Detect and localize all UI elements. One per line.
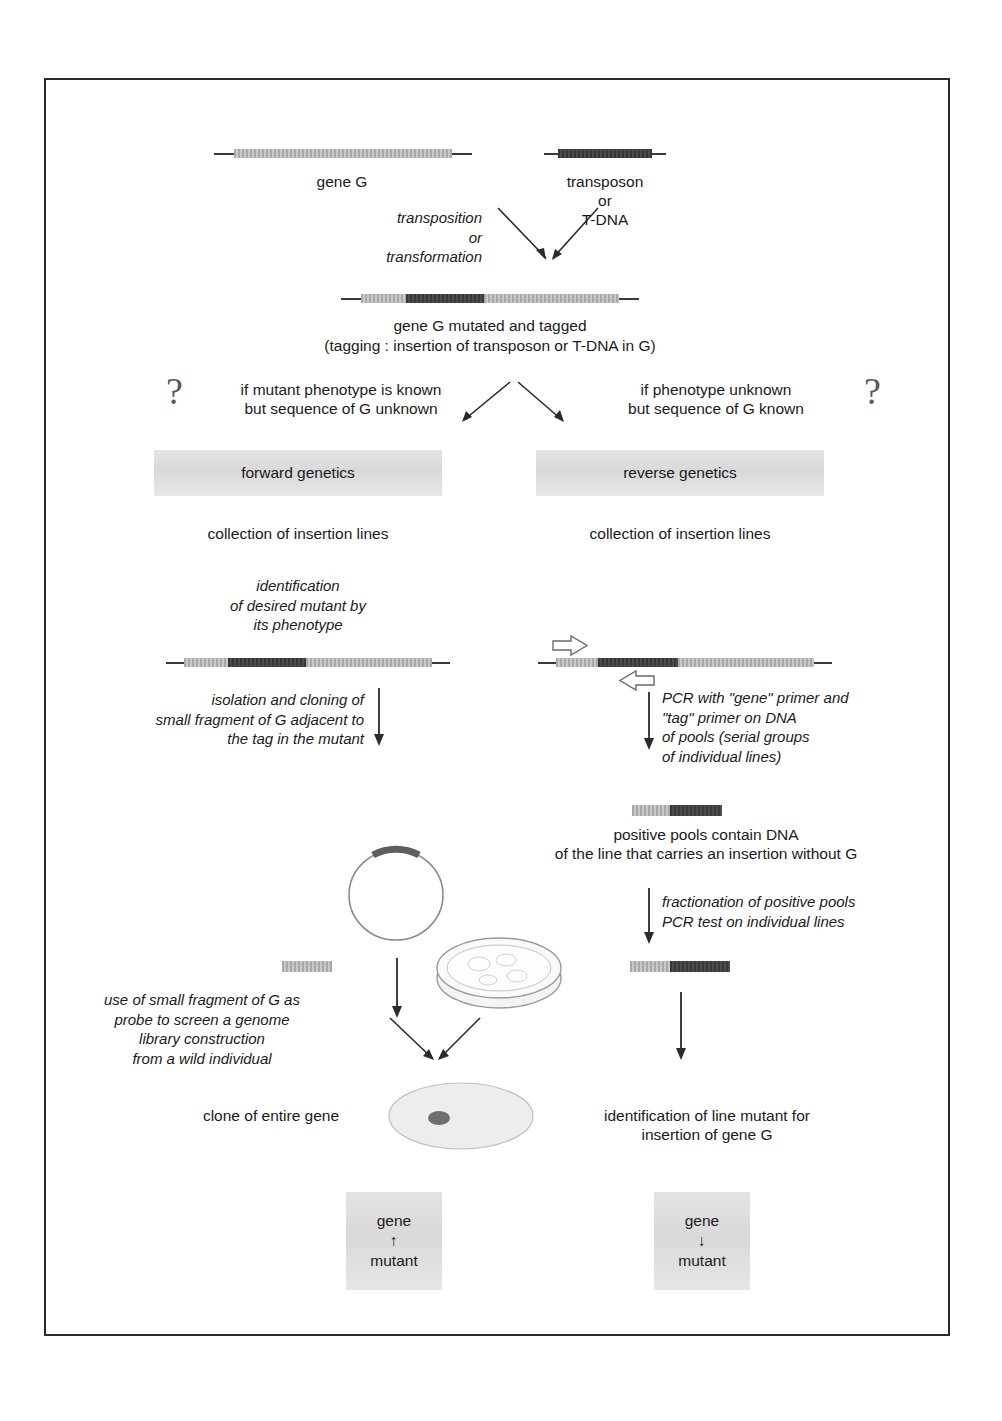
gene-g-bar-left-tail: [214, 153, 236, 155]
figure-frame: gene G transposon or T-DNA transposition…: [44, 78, 950, 1336]
line-mutant-identification-label: identification of line mutant for insert…: [532, 1106, 882, 1144]
mutated-bar-tag-insert: [406, 294, 484, 303]
forward-mutant-bar: [168, 658, 448, 667]
gene-g-label: gene G: [262, 172, 422, 191]
transposition-arrows: [486, 198, 626, 270]
pcr-down-arrow: [642, 692, 656, 752]
gene-g-mutated-bar: [343, 294, 637, 303]
transposon-bar-right-tail: [650, 153, 666, 155]
reverse-mutant-bar-left-tail: [538, 662, 558, 664]
forward-mutant-bar-left-tail: [166, 662, 186, 664]
transposon-bar: [546, 149, 664, 158]
mutated-caption-line1: gene G mutated and tagged: [260, 316, 720, 335]
gene-g-bar-body: [234, 149, 452, 158]
mutated-bar-left-tail: [341, 298, 363, 300]
petri-dish-icon: [434, 930, 564, 1014]
reverse-identification-down-arrow: [674, 992, 688, 1062]
mutated-bar-gene-left: [361, 294, 406, 303]
positive-pool-fragment-gene: [632, 805, 670, 816]
branch-arrows: [452, 376, 572, 432]
isolation-cloning-label: isolation and cloning of small fragment …: [54, 690, 364, 749]
probe-screen-label: use of small fragment of G as probe to s…: [52, 990, 352, 1068]
right-condition-label: if phenotype unknown but sequence of G k…: [576, 380, 856, 418]
right-question-mark-icon: ?: [864, 372, 881, 410]
reverse-mutant-bar-gene-left: [556, 658, 598, 667]
mutated-caption-line2: (tagging : insertion of transposon or T-…: [230, 336, 750, 355]
mutated-bar-gene-right: [484, 294, 619, 303]
reverse-primer-arrow-icon: [618, 670, 658, 692]
positive-pool-fragment-bar: [632, 805, 722, 816]
transposition-label: transposition or transformation: [262, 208, 482, 267]
probe-fragment-gene: [282, 961, 332, 972]
gene-g-bar-right-tail: [450, 153, 472, 155]
reverse-result-box: gene ↓ mutant: [654, 1192, 750, 1290]
mutated-bar-right-tail: [617, 298, 639, 300]
line-fragment-tag: [670, 961, 730, 972]
line-specific-fragment-bar: [630, 961, 730, 972]
forward-result-box: gene ↑ mutant: [346, 1192, 442, 1290]
identification-by-phenotype-label: identification of desired mutant by its …: [154, 576, 442, 635]
positive-pool-fragment-tag: [670, 805, 722, 816]
left-question-mark-icon: ?: [166, 372, 183, 410]
probe-fragment-bar: [282, 961, 332, 972]
forward-mutant-bar-right-tail: [430, 662, 450, 664]
forward-primer-arrow-icon: [551, 635, 591, 657]
library-converging-arrows: [376, 1010, 506, 1072]
reverse-mutant-bar-right-tail: [812, 662, 832, 664]
fractionation-label: fractionation of positive pools PCR test…: [662, 892, 962, 931]
reverse-mutant-bar: [540, 658, 830, 667]
genomic-clone-ellipse-icon: [386, 1080, 536, 1152]
pcr-primer-label: PCR with "gene" primer and "tag" primer …: [662, 688, 962, 766]
forward-collection-label: collection of insertion lines: [154, 524, 442, 543]
line-fragment-gene: [630, 961, 670, 972]
gene-g-bar: [216, 149, 470, 158]
reverse-genetics-banner: reverse genetics: [536, 450, 824, 496]
fractionation-down-arrow: [642, 888, 656, 946]
left-condition-label: if mutant phenotype is known but sequenc…: [196, 380, 486, 418]
clone-of-entire-gene-label: clone of entire gene: [156, 1106, 386, 1125]
isolation-down-arrow: [372, 688, 386, 748]
reverse-collection-label: collection of insertion lines: [536, 524, 824, 543]
transposon-bar-body: [558, 149, 652, 158]
forward-mutant-bar-tag: [228, 658, 306, 667]
reverse-mutant-bar-tag: [598, 658, 678, 667]
forward-mutant-bar-gene-right: [306, 658, 432, 667]
forward-genetics-banner: forward genetics: [154, 450, 442, 496]
forward-mutant-bar-gene-left: [184, 658, 228, 667]
positive-pools-label: positive pools contain DNA of the line t…: [496, 825, 916, 863]
reverse-mutant-bar-gene-right: [678, 658, 814, 667]
